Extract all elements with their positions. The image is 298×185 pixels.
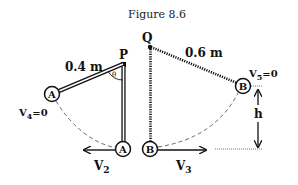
svg-text:B: B — [239, 81, 247, 92]
velocity-v3-label: V3 — [175, 159, 192, 175]
velocity-v5-label: V5=0 — [248, 68, 278, 82]
figure-title: Figure 8.6 — [128, 8, 186, 21]
height-label: h — [254, 107, 263, 121]
velocity-v2-label: V2 — [93, 159, 110, 175]
pivot-p-label: P — [119, 48, 128, 62]
rod-length-label: 0.4 m — [65, 60, 103, 74]
swing-path-b — [158, 93, 238, 147]
mass-b-right: B — [236, 79, 251, 94]
mass-a-bottom: A — [116, 142, 131, 157]
mass-b-bottom: B — [143, 142, 158, 157]
svg-text:B: B — [146, 144, 154, 155]
swing-path-a — [56, 101, 116, 148]
svg-text:A: A — [47, 89, 56, 100]
angle-label: θ — [112, 71, 116, 79]
pendulum-diagram: Figure 8.6 Q P θ 0.4 m 0.6 m A A B — [0, 0, 298, 185]
mass-a-left: A — [45, 87, 60, 102]
string-length-label: 0.6 m — [185, 46, 223, 60]
svg-text:A: A — [118, 144, 127, 155]
velocity-v4-label: V4=0 — [18, 107, 48, 121]
pivot-q-label: Q — [142, 31, 152, 45]
